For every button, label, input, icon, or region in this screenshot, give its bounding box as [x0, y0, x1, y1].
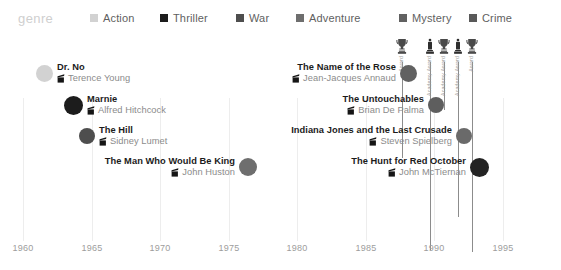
genre-dot[interactable] — [239, 158, 257, 176]
legend-swatch-thriller — [160, 14, 168, 22]
clapperboard-icon — [57, 74, 65, 83]
film-director: Alfred Hitchcock — [98, 105, 166, 116]
film-title: Marnie — [87, 94, 166, 105]
legend-swatch-war — [236, 14, 244, 22]
legend-label-crime: Crime — [482, 12, 512, 24]
genre-dot[interactable] — [64, 96, 83, 115]
film-director: Brian De Palma — [358, 105, 424, 116]
x-axis-tick: 1975 — [218, 243, 239, 253]
clapperboard-icon — [99, 137, 107, 146]
film-title: Indiana Jones and the Last Crusade — [291, 125, 452, 136]
timeline-plot: AwardAcademy AwardAcademy AwardAcademy A… — [0, 36, 561, 241]
legend-title: genre — [18, 11, 53, 26]
legend-label-thriller: Thriller — [173, 12, 208, 24]
legend: genre Action Thriller War Adventure Myst… — [0, 0, 561, 36]
film-director: John McTiernan — [399, 167, 466, 178]
film-marker[interactable]: Indiana Jones and the Last CrusadeSteven… — [0, 119, 472, 153]
film-director: Steven Spielberg — [380, 136, 452, 147]
film-title: The Untouchables — [343, 94, 424, 105]
legend-item-crime[interactable]: Crime — [469, 12, 512, 24]
legend-swatch-crime — [469, 14, 477, 22]
clapperboard-icon — [388, 168, 396, 177]
clapperboard-icon — [347, 106, 355, 115]
legend-label-action: Action — [103, 12, 134, 24]
legend-item-thriller[interactable]: Thriller — [160, 12, 208, 24]
x-axis-tick: 1985 — [355, 243, 376, 253]
genre-dot[interactable] — [36, 65, 53, 82]
x-axis-tick: 1995 — [492, 243, 513, 253]
legend-item-war[interactable]: War — [236, 12, 269, 24]
legend-swatch-mystery — [399, 14, 407, 22]
film-title: The Hunt for Red October — [351, 156, 466, 167]
film-title: Dr. No — [57, 62, 130, 73]
film-title: The Man Who Would Be King — [105, 156, 235, 167]
film-director: John Huston — [182, 167, 235, 178]
clapperboard-icon — [292, 74, 300, 83]
legend-label-war: War — [249, 12, 269, 24]
clapperboard-icon — [369, 137, 377, 146]
genre-dot[interactable] — [428, 97, 444, 113]
x-axis: 19601965197019751980198519901995 — [0, 241, 561, 270]
legend-label-adventure: Adventure — [309, 12, 361, 24]
legend-label-mystery: Mystery — [412, 12, 452, 24]
x-axis-tick: 1990 — [423, 243, 444, 253]
film-title: The Name of the Rose — [297, 62, 396, 73]
x-axis-tick: 1970 — [149, 243, 170, 253]
x-axis-tick: 1965 — [81, 243, 102, 253]
film-director: Terence Young — [68, 73, 130, 84]
legend-swatch-adventure — [296, 14, 304, 22]
film-director: Sidney Lumet — [110, 136, 167, 147]
clapperboard-icon — [87, 106, 95, 115]
legend-item-adventure[interactable]: Adventure — [296, 12, 361, 24]
film-title: The Hill — [99, 125, 167, 136]
legend-item-action[interactable]: Action — [90, 12, 134, 24]
legend-item-mystery[interactable]: Mystery — [399, 12, 452, 24]
film-director: Jean-Jacques Annaud — [303, 73, 396, 84]
genre-dot[interactable] — [456, 128, 472, 144]
genre-dot[interactable] — [400, 65, 417, 82]
genre-dot[interactable] — [79, 128, 95, 144]
clapperboard-icon — [171, 168, 179, 177]
x-axis-tick: 1960 — [12, 243, 33, 253]
x-axis-tick: 1980 — [286, 243, 307, 253]
legend-swatch-action — [90, 14, 98, 22]
genre-dot[interactable] — [470, 158, 489, 177]
